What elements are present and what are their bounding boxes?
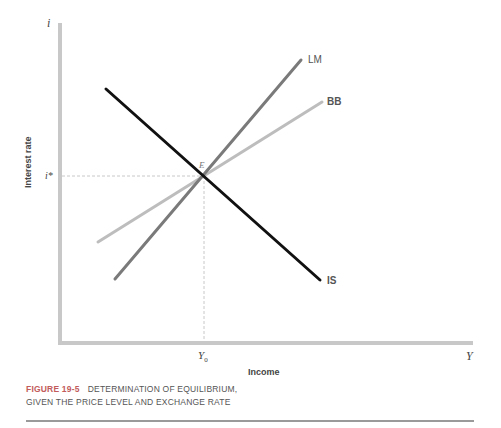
x-axis — [58, 341, 473, 345]
lm-label: LM — [308, 54, 322, 65]
x-axis-title: Income — [248, 367, 280, 377]
is-lm-bb-diagram — [0, 0, 501, 428]
y-axis-title: Interest rate — [23, 136, 33, 188]
figure-caption: FIGURE 19-5DETERMINATION OF EQUILIBRIUM,… — [26, 383, 237, 409]
caption-line-1: DETERMINATION OF EQUILIBRIUM, — [88, 384, 238, 394]
lm-curve — [115, 60, 301, 279]
x-axis-symbol: Y — [466, 349, 473, 364]
y-axis — [58, 23, 62, 345]
i-star-tick: i* — [45, 170, 53, 181]
caption-line-2: GIVEN THE PRICE LEVEL AND EXCHANGE RATE — [26, 396, 237, 409]
bb-label: BB — [327, 96, 341, 107]
y0-tick: Y0 — [198, 349, 208, 364]
bottom-rule — [26, 420, 474, 422]
bb-curve — [98, 102, 322, 242]
figure-number: FIGURE 19-5 — [26, 384, 80, 394]
is-label: IS — [327, 275, 336, 286]
equilibrium-label: E — [199, 160, 205, 170]
y-axis-symbol: i — [47, 16, 50, 31]
